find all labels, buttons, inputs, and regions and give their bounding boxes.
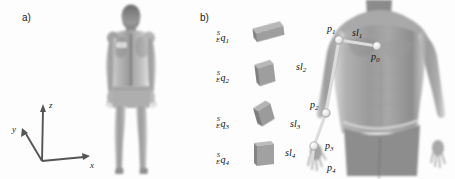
sensor-label-q2: SEq2 [216, 70, 229, 85]
axis-label-z: z [49, 100, 53, 110]
segment-label-sl1: sl1 [352, 28, 362, 40]
imu-box-1 [252, 21, 285, 43]
sensor-label-q4: SEq4 [216, 152, 229, 167]
imu-sensor-boxes [252, 21, 285, 166]
joint-p2 [322, 109, 330, 117]
figure-root: a) [0, 0, 455, 179]
joint-p3 [310, 142, 318, 150]
imu-box-4 [254, 141, 274, 166]
joint-p0 [373, 42, 381, 50]
rear-view-body-render [106, 5, 156, 175]
point-label-p2: p2 [310, 100, 319, 112]
body-sensor-patch [116, 42, 127, 48]
sensor-label-q1: SEq1 [216, 30, 229, 45]
segment-label-sl2: sl2 [296, 62, 306, 74]
imu-box-2 [254, 59, 276, 86]
point-label-p1: p1 [327, 24, 336, 36]
sensor-label-q3: SEq3 [216, 116, 229, 131]
world-coordinate-frame [21, 104, 90, 161]
segment-label-sl3: sl3 [290, 119, 300, 131]
axis-label-y: y [12, 124, 16, 134]
point-label-p0: p0 [371, 52, 380, 64]
joint-p1 [335, 36, 343, 44]
point-label-p4: p4 [327, 163, 336, 175]
axis-label-x: x [90, 160, 94, 170]
panel-b-caption: b) [200, 12, 209, 23]
point-label-p3: p3 [325, 141, 334, 153]
right-hand [431, 140, 445, 168]
segment-label-sl4: sl4 [285, 148, 295, 160]
imu-box-3 [252, 99, 276, 127]
